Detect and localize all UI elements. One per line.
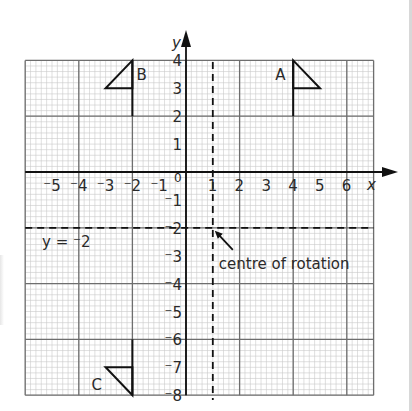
x-tick-label: 3 — [261, 177, 271, 195]
line-equation-label: y = ⁻2 — [42, 233, 90, 251]
y-tick-label: ⁻7 — [165, 359, 182, 377]
y-tick-label: 1 — [172, 136, 182, 154]
x-tick-label: 2 — [235, 177, 245, 195]
triangle-label-b: B — [136, 66, 146, 84]
x-tick-label: ⁻5 — [43, 177, 60, 195]
y-tick-label: ⁻1 — [165, 192, 182, 210]
x-tick-label: 6 — [342, 177, 352, 195]
x-tick-label: 5 — [315, 177, 325, 195]
x-tick-label: ⁻4 — [70, 177, 87, 195]
x-tick-label: 4 — [288, 177, 298, 195]
triangle-outline — [106, 60, 133, 88]
y-tick-label: 4 — [172, 52, 182, 70]
y-tick-label: ⁻2 — [165, 220, 182, 238]
y-axis-arrow-icon — [181, 30, 191, 47]
x-axis-arrow-icon — [382, 167, 398, 177]
triangle-outline — [106, 367, 133, 395]
x-tick-label: 0 — [174, 171, 182, 185]
x-tick-label: ⁻2 — [124, 177, 141, 195]
annotation-arrow-line — [219, 235, 233, 250]
triangle-label-a: A — [275, 66, 286, 84]
x-axis-label: x — [366, 176, 376, 194]
y-tick-label: ⁻4 — [165, 276, 182, 294]
centre-of-rotation-label: centre of rotation — [219, 255, 350, 273]
coordinate-diagram: y = ⁻2 ABC ⁻5⁻4⁻3⁻2⁻101234564321⁻1⁻2⁻3⁻4… — [0, 0, 412, 411]
y-tick-label: ⁻5 — [165, 304, 182, 322]
y-tick-label: 3 — [172, 80, 182, 98]
y-tick-label: ⁻3 — [165, 248, 182, 266]
centre-annotation: centre of rotation — [215, 231, 350, 273]
y-axis-label: y — [171, 34, 182, 52]
dashed-lines: y = ⁻2 — [25, 62, 373, 400]
x-tick-label: 1 — [208, 177, 218, 195]
axes — [25, 30, 398, 395]
y-tick-label: 2 — [172, 108, 182, 126]
x-tick-label: ⁻3 — [97, 177, 114, 195]
triangle-outline — [293, 60, 320, 88]
triangle-label-c: C — [92, 376, 102, 394]
y-tick-label: ⁻6 — [165, 331, 182, 349]
y-tick-label: ⁻8 — [165, 387, 182, 405]
axis-labels: ⁻5⁻4⁻3⁻2⁻101234564321⁻1⁻2⁻3⁻4⁻5⁻6⁻7⁻8xy — [43, 34, 376, 405]
